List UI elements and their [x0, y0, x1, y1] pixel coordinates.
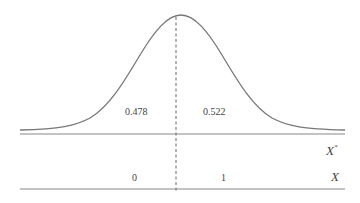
- category-1-label: 1: [221, 172, 226, 183]
- right-area-label: 0.522: [203, 106, 226, 117]
- normal-curve: [20, 15, 345, 130]
- left-area-label: 0.478: [125, 106, 148, 117]
- category-0-label: 0: [132, 172, 137, 183]
- observed-axis-label: X: [330, 169, 340, 184]
- threshold-diagram: 0.478 0.522 X* 0 1 X: [0, 0, 360, 203]
- latent-axis-label: X*: [325, 143, 338, 158]
